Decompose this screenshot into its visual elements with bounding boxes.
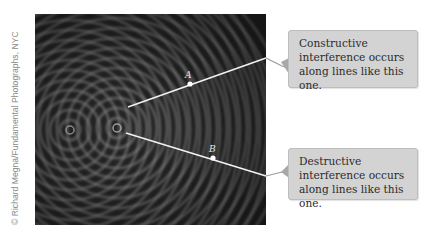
point-a-marker [187, 81, 192, 86]
point-b-marker [210, 155, 215, 160]
point-a-label: A [184, 70, 192, 80]
destructive-line-b [126, 133, 266, 176]
constructive-line-a [128, 58, 266, 107]
destructive-callout: Destructive interference occurs along li… [288, 148, 418, 200]
constructive-callout: Constructive interference occurs along l… [288, 30, 418, 88]
point-b-label: B [208, 144, 216, 154]
